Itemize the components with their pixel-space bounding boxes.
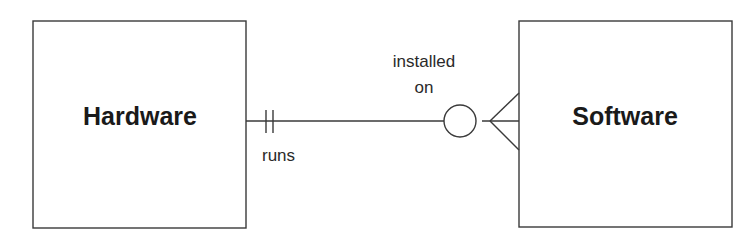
relationship-label-on: on: [415, 78, 434, 97]
relationship-label-installed: installed: [393, 52, 455, 71]
entity-software-label: Software: [572, 102, 678, 130]
relationship-connector[interactable]: [246, 93, 519, 150]
er-diagram: Hardware Software runs installed on: [0, 0, 756, 245]
relationship-label-runs: runs: [262, 146, 295, 165]
entity-hardware[interactable]: Hardware: [33, 21, 246, 228]
entity-hardware-label: Hardware: [83, 102, 197, 130]
entity-software[interactable]: Software: [519, 21, 732, 227]
cardinality-optional-circle-icon: [444, 105, 476, 137]
cardinality-many-crowsfoot-icon: [482, 93, 519, 150]
